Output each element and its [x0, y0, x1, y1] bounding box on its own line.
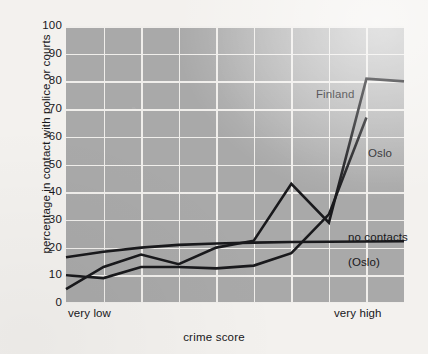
y-tick-30: 30 [22, 214, 62, 226]
series-sublabel-oslo: (Oslo) [348, 256, 380, 268]
y-tick-10: 10 [22, 270, 62, 282]
y-tick-90: 90 [22, 48, 62, 60]
series-label-no-contacts: no contacts [348, 231, 408, 243]
y-tick-70: 70 [22, 103, 62, 115]
series-line-oslo [66, 117, 366, 278]
y-tick-0: 0 [22, 297, 62, 309]
y-tick-20: 20 [22, 242, 62, 254]
chart-figure: percentage in contact with police or cou… [0, 0, 428, 354]
series-label-oslo: Oslo [368, 147, 392, 159]
y-tick-80: 80 [22, 76, 62, 88]
x-tick-very-high: very high [334, 307, 382, 319]
series-line-no-contacts [66, 241, 404, 257]
y-tick-100: 100 [22, 20, 62, 32]
y-tick-50: 50 [22, 159, 62, 171]
y-tick-60: 60 [22, 131, 62, 143]
x-tick-very-low: very low [68, 307, 111, 319]
series-label-finland: Finland [316, 88, 354, 100]
x-axis-label: crime score [0, 331, 428, 343]
y-tick-40: 40 [22, 186, 62, 198]
